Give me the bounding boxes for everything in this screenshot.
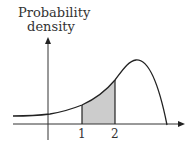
- x-tick-1: 1: [78, 128, 86, 140]
- density-chart: [0, 0, 193, 147]
- y-axis-arrowhead: [45, 37, 51, 44]
- x-axis-arrowhead: [178, 121, 185, 127]
- x-tick-2: 2: [111, 128, 119, 140]
